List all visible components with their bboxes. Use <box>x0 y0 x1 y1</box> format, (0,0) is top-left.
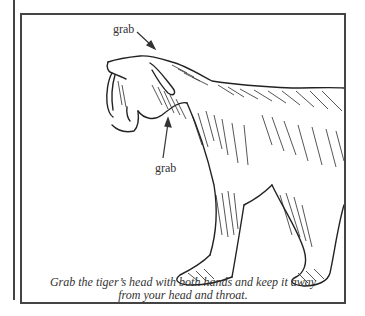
grab-label-throat: grab <box>155 162 176 174</box>
illustration-frame: grab grab Grab the tiger’s head with bot… <box>20 13 346 304</box>
caption-line-2: from your head and throat. <box>22 289 344 302</box>
page-margin-rule <box>13 0 15 300</box>
saber-tooth-tiger-drawing <box>22 15 344 302</box>
grab-label-head: grab <box>113 23 134 35</box>
